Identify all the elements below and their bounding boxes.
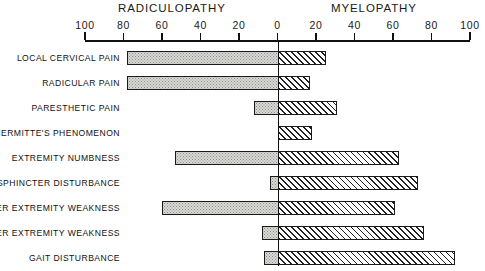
- chart-row: PARESTHETIC PAIN: [0, 96, 485, 121]
- bar-radiculopathy: [162, 201, 279, 215]
- bar-radiculopathy: [262, 226, 279, 240]
- axis-tick-label: 0: [274, 19, 280, 31]
- zero-baseline: [278, 40, 280, 266]
- axis-tick-label: 60: [387, 19, 400, 31]
- bar-myelopathy: [278, 126, 313, 140]
- chart-rows: LOCAL CERVICAL PAINRADICULAR PAINPARESTH…: [0, 46, 485, 271]
- row-label-wrap: LHERMITTE'S PHENOMENON: [0, 121, 120, 146]
- axis-tick-label: 20: [233, 19, 246, 31]
- chart-row: GAIT DISTURBANCE: [0, 246, 485, 271]
- axis-tick-label: 20: [310, 19, 323, 31]
- bar-myelopathy: [278, 51, 326, 65]
- category-label: GAIT DISTURBANCE: [29, 246, 120, 271]
- axis-tick-mark: [84, 32, 86, 40]
- bar-radiculopathy: [127, 76, 279, 90]
- axis-tick-mark: [161, 33, 163, 40]
- diverging-bar-chart: RADICULOPATHY MYELOPATHY 100806040200204…: [0, 0, 485, 271]
- axis-title-radiculopathy: RADICULOPATHY: [118, 2, 226, 14]
- axis-tick-label: 40: [194, 19, 207, 31]
- axis-tick-mark: [392, 33, 394, 40]
- axis-tick-label: 100: [75, 19, 94, 31]
- axis-tick-mark: [277, 33, 279, 40]
- bar-radiculopathy: [127, 51, 279, 65]
- axis-tick-mark: [469, 32, 471, 40]
- category-label: EXTREMITY NUMBNESS: [12, 146, 120, 171]
- bar-myelopathy: [278, 151, 399, 165]
- chart-row: EXTREMITY NUMBNESS: [0, 146, 485, 171]
- row-label-wrap: EXTREMITY NUMBNESS: [0, 146, 120, 171]
- category-label: SPHINCTER DISTURBANCE: [0, 171, 120, 196]
- chart-row: LOWER EXTREMITY WEAKNESS: [0, 221, 485, 246]
- category-label: UPPER EXTREMITY WEAKNESS: [0, 196, 120, 221]
- chart-row: LHERMITTE'S PHENOMENON: [0, 121, 485, 146]
- row-label-wrap: LOWER EXTREMITY WEAKNESS: [0, 221, 120, 246]
- chart-row: RADICULAR PAIN: [0, 71, 485, 96]
- axis-tick-label: 100: [460, 19, 479, 31]
- axis-title-myelopathy: MYELOPATHY: [331, 2, 417, 14]
- row-label-wrap: GAIT DISTURBANCE: [0, 246, 120, 271]
- axis-tick-mark: [431, 33, 433, 40]
- axis-tick-label: 40: [348, 19, 361, 31]
- bar-myelopathy: [278, 76, 311, 90]
- chart-row: LOCAL CERVICAL PAIN: [0, 46, 485, 71]
- axis-tick-label: 60: [156, 19, 169, 31]
- bar-myelopathy: [278, 101, 338, 115]
- row-label-wrap: UPPER EXTREMITY WEAKNESS: [0, 196, 120, 221]
- bar-myelopathy: [278, 201, 395, 215]
- bar-myelopathy: [278, 251, 455, 265]
- bar-myelopathy: [278, 226, 424, 240]
- axis-tick-mark: [200, 33, 202, 40]
- axis-tick-label: 80: [117, 19, 130, 31]
- axis-tick-mark: [123, 33, 125, 40]
- row-label-wrap: RADICULAR PAIN: [0, 71, 120, 96]
- axis-tick-mark: [354, 33, 356, 40]
- row-label-wrap: SPHINCTER DISTURBANCE: [0, 171, 120, 196]
- category-label: LOCAL CERVICAL PAIN: [17, 46, 120, 71]
- row-label-wrap: PARESTHETIC PAIN: [0, 96, 120, 121]
- chart-row: SPHINCTER DISTURBANCE: [0, 171, 485, 196]
- axis-tick-mark: [238, 33, 240, 40]
- axis-tick-label: 80: [425, 19, 438, 31]
- bar-myelopathy: [278, 176, 419, 190]
- category-label: RADICULAR PAIN: [42, 71, 120, 96]
- axis-tick-mark: [315, 33, 317, 40]
- row-label-wrap: LOCAL CERVICAL PAIN: [0, 46, 120, 71]
- category-label: LHERMITTE'S PHENOMENON: [0, 121, 120, 146]
- category-label: LOWER EXTREMITY WEAKNESS: [0, 221, 120, 246]
- bar-radiculopathy: [175, 151, 279, 165]
- category-label: PARESTHETIC PAIN: [31, 96, 120, 121]
- chart-row: UPPER EXTREMITY WEAKNESS: [0, 196, 485, 221]
- axis-tick-label-row: 10080604020020406080100: [0, 19, 485, 33]
- bar-radiculopathy: [254, 101, 279, 115]
